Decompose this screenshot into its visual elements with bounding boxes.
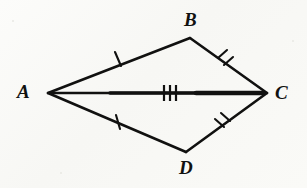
tick-mark-BC: [218, 50, 233, 65]
segment-DC: [186, 93, 267, 152]
vertex-label-B: B: [184, 10, 197, 29]
segment-AB: [48, 38, 190, 93]
vertex-label-D: D: [179, 158, 193, 177]
segment-AD: [48, 93, 186, 152]
vertex-label-C: C: [275, 83, 288, 102]
kite-diagram-svg: [0, 0, 307, 188]
geometry-figure-canvas: A B C D: [0, 0, 307, 188]
tick-mark-DC: [215, 113, 230, 127]
tick-mark-AB: [115, 52, 121, 66]
vertex-label-A: A: [17, 82, 30, 101]
segment-BC: [190, 38, 267, 93]
